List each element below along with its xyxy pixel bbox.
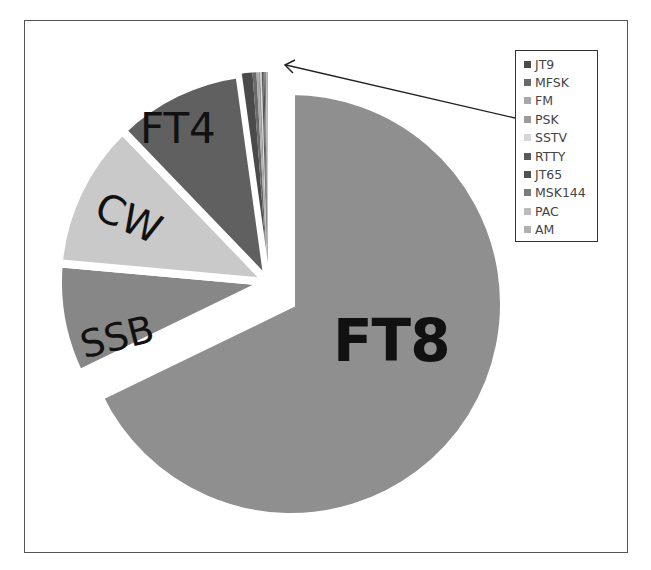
legend-swatch-icon (524, 79, 531, 86)
legend-swatch-icon (524, 171, 531, 178)
legend-item-msk144: MSK144 (524, 184, 597, 202)
legend-swatch-icon (524, 208, 531, 215)
chart-legend: JT9 MFSK FM PSK SSTV RTTY JT65 MSK144 PA… (515, 50, 598, 242)
legend-label: JT65 (535, 167, 562, 182)
legend-label: MFSK (535, 75, 569, 90)
legend-label: FM (535, 93, 553, 108)
legend-item-mfsk: MFSK (524, 73, 597, 91)
pie-slices (58, 70, 504, 517)
legend-swatch-icon (524, 134, 531, 141)
legend-label: JT9 (535, 57, 554, 72)
legend-label: SSTV (535, 130, 567, 145)
legend-item-jt9: JT9 (524, 55, 597, 73)
legend-label: PAC (535, 204, 559, 219)
legend-swatch-icon (524, 189, 531, 196)
legend-label: MSK144 (535, 185, 586, 200)
slice-label-ft4: FT4 (140, 108, 216, 150)
legend-label: PSK (535, 112, 559, 127)
legend-item-jt65: JT65 (524, 165, 597, 183)
legend-swatch-icon (524, 61, 531, 68)
legend-item-pac: PAC (524, 202, 597, 220)
legend-swatch-icon (524, 153, 531, 160)
legend-label: AM (535, 222, 554, 237)
legend-item-sstv: SSTV (524, 129, 597, 147)
legend-item-psk: PSK (524, 110, 597, 128)
legend-swatch-icon (524, 97, 531, 104)
legend-swatch-icon (524, 226, 531, 233)
slice-label-ft8: FT8 (333, 312, 450, 370)
legend-swatch-icon (524, 116, 531, 123)
legend-item-fm: FM (524, 92, 597, 110)
legend-item-rtty: RTTY (524, 147, 597, 165)
legend-item-am: AM (524, 221, 597, 239)
legend-label: RTTY (535, 149, 565, 164)
